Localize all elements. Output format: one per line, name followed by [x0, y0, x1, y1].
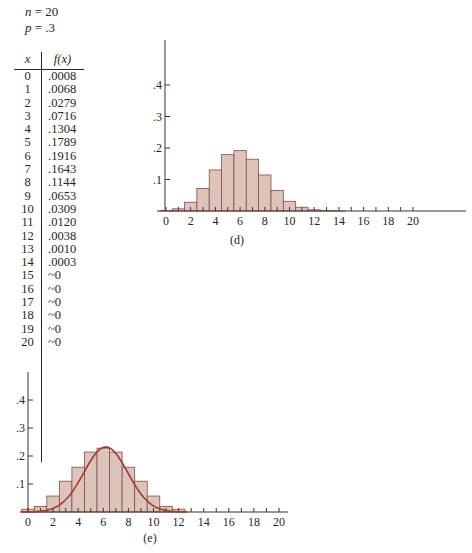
histogram-bar — [59, 481, 72, 512]
histogram-bar — [259, 175, 271, 211]
histogram-bar — [246, 159, 258, 211]
x-tick-label: 10 — [284, 214, 296, 228]
chart-d: .1.2.3.402468101214161820(d) — [153, 40, 466, 247]
x-tick-label: 14 — [333, 214, 345, 228]
histogram-bar — [135, 481, 148, 512]
x-tick-label: 12 — [173, 515, 185, 529]
x-tick-label: 2 — [188, 214, 194, 228]
x-tick-label: 6 — [237, 214, 243, 228]
histogram-bar — [222, 155, 234, 211]
x-tick-label: 4 — [212, 214, 218, 228]
chart-caption: (d) — [230, 233, 244, 247]
x-tick-label: 16 — [358, 214, 370, 228]
x-tick-label: 0 — [163, 214, 169, 228]
chart-caption: (e) — [143, 531, 156, 545]
x-tick-label: 18 — [248, 515, 260, 529]
chart-e: .1.2.3.402468101214161820(e) — [16, 372, 288, 545]
x-tick-label: 18 — [382, 214, 394, 228]
y-tick-label: .1 — [16, 477, 25, 491]
x-tick-label: 0 — [25, 515, 31, 529]
x-tick-label: 8 — [125, 515, 131, 529]
y-tick-label: .1 — [153, 173, 162, 187]
y-tick-label: .2 — [16, 449, 25, 463]
y-tick-label: .4 — [153, 78, 162, 92]
histogram-bar — [209, 170, 221, 211]
histogram-bar — [234, 151, 246, 211]
histogram-bar — [110, 452, 123, 512]
x-tick-label: 20 — [273, 515, 285, 529]
chart-d: .1.2.3.402468101214161820(d).1.2.3.40246… — [0, 0, 472, 553]
y-tick-label: .3 — [153, 110, 162, 124]
x-tick-label: 4 — [75, 515, 81, 529]
x-tick-label: 16 — [223, 515, 235, 529]
x-tick-label: 2 — [50, 515, 56, 529]
x-tick-label: 20 — [407, 214, 419, 228]
x-tick-label: 10 — [148, 515, 160, 529]
x-tick-label: 14 — [198, 515, 210, 529]
y-tick-label: .3 — [16, 421, 25, 435]
x-tick-label: 12 — [308, 214, 320, 228]
histogram-bar — [97, 448, 110, 512]
x-tick-label: 6 — [100, 515, 106, 529]
y-tick-label: .2 — [153, 141, 162, 155]
x-tick-label: 8 — [262, 214, 268, 228]
y-tick-label: .4 — [16, 393, 25, 407]
